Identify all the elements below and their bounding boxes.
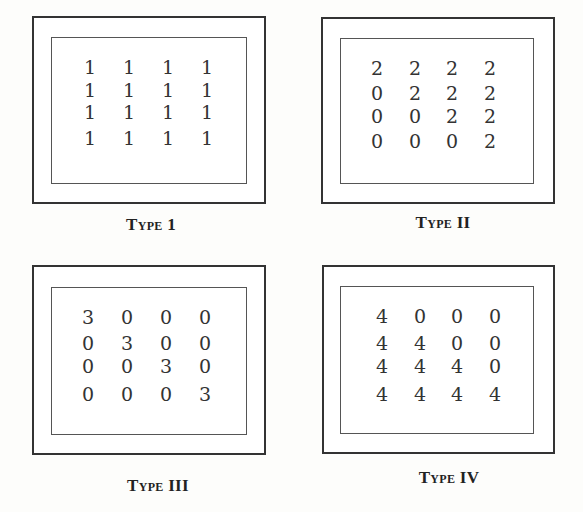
matrix-cell: 1 [119,102,139,122]
matrix-cell: 0 [195,356,215,376]
matrix-cell: 0 [156,307,176,327]
matrix-cell: 0 [485,306,505,326]
matrix-cell: 3 [195,384,215,404]
matrix-cell: 0 [405,106,425,126]
matrix-cell: 0 [195,333,215,353]
matrix-cell: 2 [405,58,425,78]
matrix-cell: 2 [442,58,462,78]
panel-label: Type 1 [126,215,176,235]
matrix-cell: 1 [197,80,217,100]
matrix-cell: 1 [80,80,100,100]
matrix-cell: 1 [80,57,100,77]
matrix-cell: 4 [372,356,392,376]
matrix-cell: 2 [367,58,387,78]
matrix-cell: 2 [480,58,500,78]
matrix-cell: 0 [78,384,98,404]
matrix-cell: 1 [158,57,178,77]
matrix-cell: 2 [442,106,462,126]
matrix-cell: 2 [480,131,500,151]
matrix-cell: 0 [156,333,176,353]
matrix-cell: 0 [78,333,98,353]
matrix-cell: 3 [156,356,176,376]
matrix-cell: 0 [78,356,98,376]
matrix-cell: 0 [156,384,176,404]
matrix-cell: 1 [197,128,217,148]
matrix-cell: 1 [197,57,217,77]
matrix-cell: 4 [447,384,467,404]
matrix-cell: 1 [80,128,100,148]
matrix-cell: 1 [119,57,139,77]
matrix-cell: 2 [442,83,462,103]
matrix-cell: 1 [158,128,178,148]
matrix-cell: 1 [158,80,178,100]
matrix-cell: 0 [117,356,137,376]
panel-label: Type IV [419,468,480,488]
matrix-cell: 0 [367,83,387,103]
matrix-cell: 4 [447,356,467,376]
matrix-cell: 2 [480,83,500,103]
matrix-cell: 0 [410,306,430,326]
matrix-cell: 1 [80,102,100,122]
matrix-cell: 4 [372,306,392,326]
matrix-cell: 1 [119,128,139,148]
matrix-cell: 3 [78,307,98,327]
matrix-cell: 4 [485,384,505,404]
matrix-cell: 4 [410,333,430,353]
matrix-cell: 2 [480,106,500,126]
matrix-cell: 0 [367,106,387,126]
matrix-cell: 0 [367,131,387,151]
matrix-cell: 4 [410,384,430,404]
matrix-cell: 4 [372,384,392,404]
matrix-cell: 1 [119,80,139,100]
panel-label: Type III [127,476,189,496]
matrix-cell: 4 [410,356,430,376]
matrix-cell: 0 [117,307,137,327]
matrix-cell: 2 [405,83,425,103]
matrix-cell: 0 [442,131,462,151]
matrix-cell: 1 [197,102,217,122]
matrix-cell: 1 [158,102,178,122]
matrix-cell: 3 [117,333,137,353]
panel-label: Type II [416,213,471,233]
matrix-cell: 0 [447,333,467,353]
matrix-cell: 4 [372,333,392,353]
matrix-cell: 0 [485,356,505,376]
matrix-cell: 0 [117,384,137,404]
matrix-cell: 0 [405,131,425,151]
matrix-cell: 0 [195,307,215,327]
matrix-cell: 0 [447,306,467,326]
matrix-cell: 0 [485,333,505,353]
